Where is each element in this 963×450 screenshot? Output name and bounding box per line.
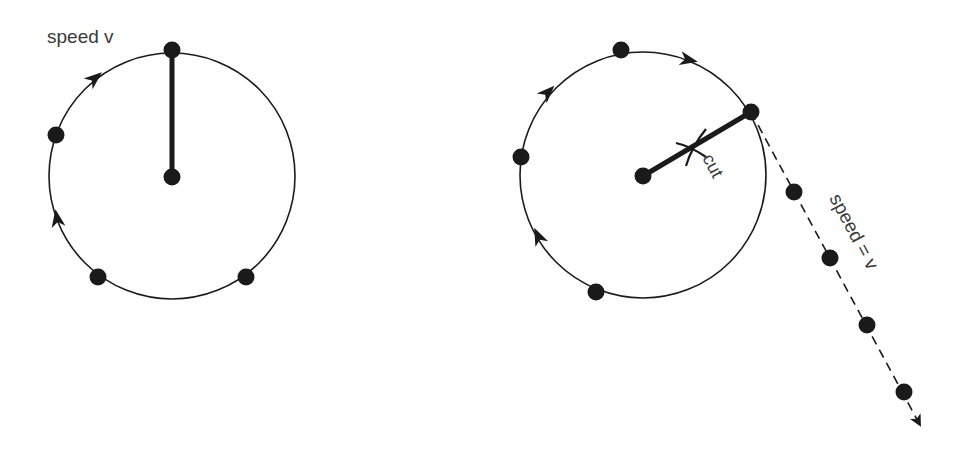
tangent-mass-1: [786, 184, 803, 201]
left-arrow-lower-icon: [49, 208, 66, 228]
left-mass-bottom-left: [90, 269, 107, 286]
left-mass-bottom-right: [238, 269, 255, 286]
right-mass-top: [613, 42, 630, 59]
left-speed-label: speed v: [47, 26, 114, 47]
right-mass-left: [513, 149, 530, 166]
right-string: [643, 112, 751, 176]
left-center-pivot: [164, 169, 181, 186]
tangent-mass-4: [896, 384, 913, 401]
tangent-mass-3: [859, 317, 876, 334]
right-arrow-lower-left-icon: [528, 225, 548, 247]
right-panel-cut-string: cut speed = v: [513, 42, 921, 426]
tangent-mass-2: [822, 250, 839, 267]
left-arrow-upper-icon: [84, 67, 107, 89]
left-mass-top: [164, 42, 181, 59]
right-center-pivot: [635, 168, 652, 185]
left-panel-rotating-mass: speed v: [47, 26, 295, 299]
left-mass-left: [48, 127, 65, 144]
right-mass-bottom: [588, 284, 605, 301]
right-arrow-upper-left-icon: [537, 81, 560, 104]
right-mass-release-point: [743, 104, 760, 121]
circular-motion-diagram: speed v cut spee: [0, 0, 963, 450]
tangent-path-dashed: [751, 112, 920, 425]
right-arrow-top-icon: [679, 51, 700, 68]
